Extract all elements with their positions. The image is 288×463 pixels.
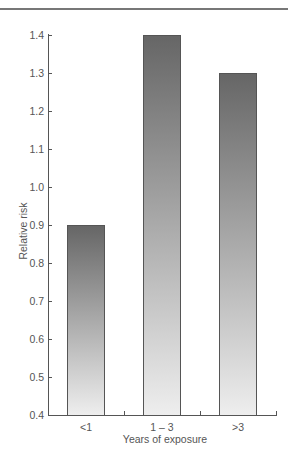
bar [67, 225, 105, 415]
y-tick-label: 0.7 [4, 295, 44, 307]
bar [143, 35, 181, 415]
y-tick-label: 1.2 [4, 105, 44, 117]
y-tick [48, 73, 52, 74]
y-tick [48, 377, 52, 378]
y-tick-label: 0.4 [4, 409, 44, 421]
y-tick [48, 35, 52, 36]
x-axis-title: Years of exposure [100, 433, 230, 445]
y-tick-label: 0.6 [4, 333, 44, 345]
y-tick-label: 1.3 [4, 67, 44, 79]
y-tick [48, 263, 52, 264]
top-rule [0, 8, 288, 10]
x-axis [48, 415, 277, 416]
y-tick [48, 111, 52, 112]
y-tick [48, 339, 52, 340]
x-tick-label: <1 [56, 421, 116, 433]
x-tick [200, 411, 201, 415]
y-tick [48, 149, 52, 150]
y-tick [48, 415, 52, 416]
x-tick [124, 411, 125, 415]
y-axis-title: Relative risk [17, 191, 29, 271]
y-tick [48, 225, 52, 226]
y-tick [48, 301, 52, 302]
y-tick-label: 0.5 [4, 371, 44, 383]
y-tick-label: 1.1 [4, 143, 44, 155]
x-tick-label: 1 – 3 [132, 421, 192, 433]
y-tick-label: 1.4 [4, 29, 44, 41]
bar [219, 73, 257, 415]
y-tick [48, 187, 52, 188]
x-tick-label: >3 [208, 421, 268, 433]
x-tick [276, 411, 277, 415]
